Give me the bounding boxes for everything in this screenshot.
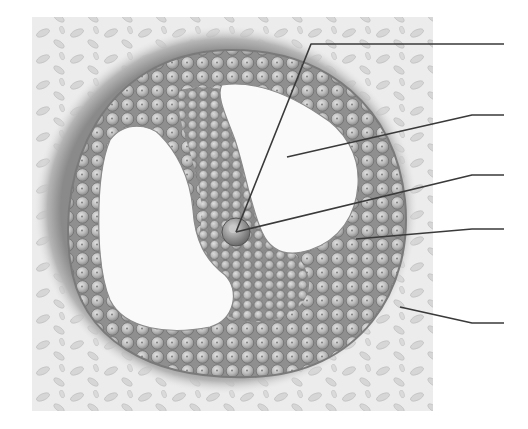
follicle-diagram xyxy=(0,0,528,429)
